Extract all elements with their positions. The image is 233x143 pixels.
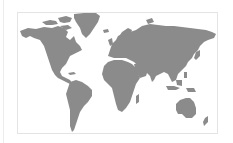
region-borneo xyxy=(176,80,182,86)
region-new-guinea xyxy=(186,88,196,92)
region-arctic-islands xyxy=(42,20,58,25)
region-arctic-islands-2 xyxy=(58,16,72,23)
region-philippines xyxy=(184,72,187,78)
region-north-america xyxy=(20,26,82,84)
region-novaya-zemlya xyxy=(146,18,154,24)
region-madagascar xyxy=(136,94,139,104)
region-caribbean xyxy=(68,72,76,75)
region-indonesia xyxy=(166,86,180,90)
region-australia xyxy=(176,98,196,118)
world-map xyxy=(0,0,233,143)
region-south-america xyxy=(66,80,92,132)
region-iceland xyxy=(103,29,109,33)
region-new-zealand xyxy=(203,116,208,126)
region-africa xyxy=(102,60,140,112)
region-greenland xyxy=(74,13,100,38)
